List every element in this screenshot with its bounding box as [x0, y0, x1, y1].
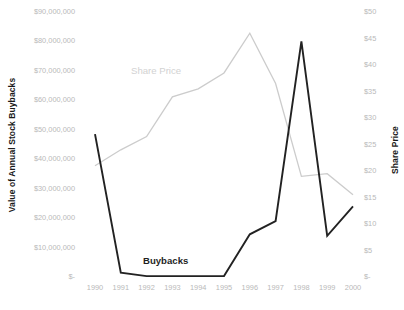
series-label-share-price: Share Price [131, 66, 181, 76]
plot-area [0, 0, 404, 310]
series-line-buybacks [95, 41, 353, 276]
series-label-buybacks: Buybacks [143, 256, 188, 266]
series-line-share-price [95, 33, 353, 195]
chart-container: Value of Annual Stock Buybacks Share Pri… [0, 0, 404, 310]
